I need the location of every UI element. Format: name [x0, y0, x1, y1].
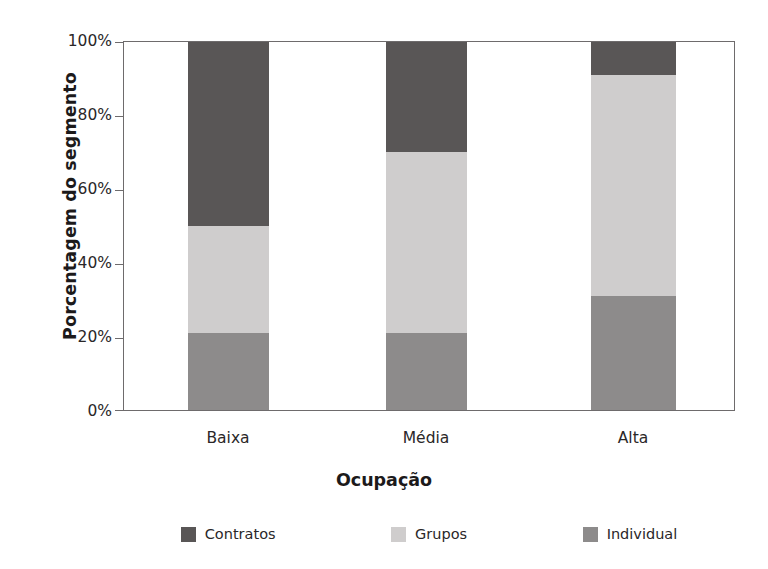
- plot-area: [123, 41, 735, 411]
- y-tick-mark-60: [115, 190, 124, 191]
- y-tick-label-60: 60%: [30, 180, 112, 198]
- bar-alta[interactable]: [591, 42, 676, 410]
- legend-item-individual[interactable]: Individual: [583, 526, 678, 542]
- legend-label-grupos: Grupos: [415, 526, 467, 542]
- bar-segment-alta-individual[interactable]: [591, 296, 676, 410]
- x-tick-label-baixa: Baixa: [206, 429, 249, 447]
- bar-baixa[interactable]: [188, 42, 269, 410]
- bar-segment-media-grupos[interactable]: [386, 152, 467, 332]
- y-tick-mark-80: [115, 116, 124, 117]
- bar-segment-media-contratos[interactable]: [386, 42, 467, 152]
- x-tick-label-media: Média: [403, 429, 450, 447]
- y-tick-mark-20: [115, 338, 124, 339]
- bar-media[interactable]: [386, 42, 467, 410]
- chart-container: Porcentagem do segmento 100% 80% 60% 40%…: [0, 0, 768, 569]
- y-tick-mark-100: [115, 42, 124, 43]
- bar-segment-baixa-contratos[interactable]: [188, 42, 269, 226]
- y-tick-label-40: 40%: [30, 254, 112, 272]
- legend-label-contratos: Contratos: [205, 526, 276, 542]
- y-tick-label-80: 80%: [30, 106, 112, 124]
- legend-label-individual: Individual: [607, 526, 678, 542]
- y-tick-label-20: 20%: [30, 328, 112, 346]
- bar-segment-alta-contratos[interactable]: [591, 42, 676, 75]
- legend-swatch-individual-icon: [583, 527, 598, 542]
- bar-segment-baixa-individual[interactable]: [188, 333, 269, 410]
- y-tick-label-0: 0%: [30, 402, 112, 420]
- legend-item-contratos[interactable]: Contratos: [181, 526, 276, 542]
- bar-segment-alta-grupos[interactable]: [591, 75, 676, 296]
- legend-swatch-grupos-icon: [391, 527, 406, 542]
- y-tick-label-100: 100%: [30, 32, 112, 50]
- bar-segment-media-individual[interactable]: [386, 333, 467, 410]
- legend-swatch-contratos-icon: [181, 527, 196, 542]
- y-tick-mark-40: [115, 264, 124, 265]
- chart-legend: Contratos Grupos Individual: [123, 519, 735, 549]
- x-tick-label-alta: Alta: [618, 429, 649, 447]
- y-tick-mark-0: [115, 410, 124, 411]
- bar-segment-baixa-grupos[interactable]: [188, 226, 269, 333]
- legend-item-grupos[interactable]: Grupos: [391, 526, 467, 542]
- x-axis-title: Ocupação: [0, 470, 768, 490]
